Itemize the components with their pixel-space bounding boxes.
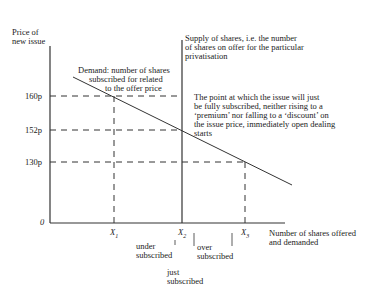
over-subscribed-2: subscribed bbox=[197, 252, 233, 261]
equilibrium-note-5: starts bbox=[194, 129, 212, 138]
price-tick-152: 152p bbox=[25, 126, 42, 135]
x-axis-label-2: and demanded bbox=[269, 238, 318, 247]
y-axis-label-2: new issue bbox=[12, 37, 45, 46]
just-subscribed-2: subscribed bbox=[167, 277, 203, 286]
equilibrium-note-4: the issue price, immediately open dealin… bbox=[194, 120, 335, 129]
demand-label-3: to the offer price bbox=[105, 84, 162, 93]
price-tick-130: 130p bbox=[25, 158, 42, 167]
supply-label-3: privatisation bbox=[185, 52, 228, 61]
quantity-tick-x2: X2 bbox=[178, 228, 186, 241]
quantity-tick-x3: X3 bbox=[241, 228, 249, 241]
under-subscribed-2: subscribed bbox=[136, 251, 172, 260]
diagram-canvas bbox=[0, 0, 366, 296]
price-tick-160: 160p bbox=[25, 92, 42, 101]
origin-label: 0 bbox=[40, 218, 44, 227]
quantity-tick-x1: X1 bbox=[110, 228, 118, 241]
